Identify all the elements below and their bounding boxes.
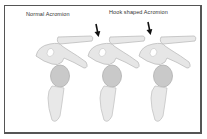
shoulder-illustration (0, 0, 207, 139)
panel-hook-acromion-2 (139, 22, 196, 121)
panel-hook-acromion-1 (88, 24, 145, 121)
arrow-icon (147, 22, 153, 35)
panel-normal-acromion (36, 36, 93, 121)
arrow-icon (95, 24, 101, 37)
